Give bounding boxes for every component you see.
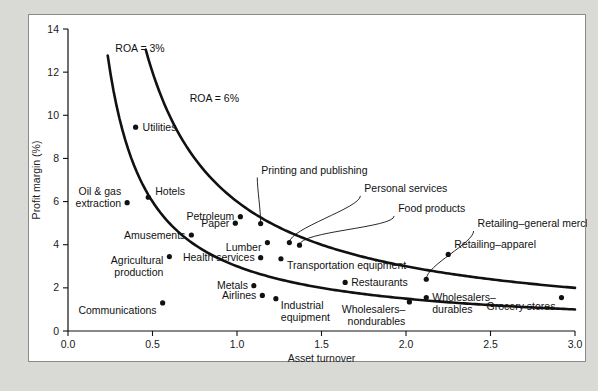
x-axis-tick-label: 1.0: [230, 338, 245, 350]
curve-annotation: ROA = 3%: [115, 42, 164, 54]
data-point-label: Personal services: [364, 182, 447, 194]
data-point-label: Communications: [78, 304, 156, 316]
curve-annotation: ROA = 6%: [190, 92, 239, 104]
data-point: [167, 254, 172, 259]
y-axis-title: Profit margin (%): [30, 141, 42, 220]
data-point: [424, 295, 429, 300]
x-axis-tick-label: 0.0: [61, 338, 76, 350]
x-axis-tick-label: 2.5: [483, 338, 498, 350]
x-axis-title: Asset turnover: [288, 352, 356, 363]
data-point: [446, 252, 451, 257]
scatter-plot: 024681012140.00.51.01.52.02.53.0Asset tu…: [29, 15, 587, 363]
data-point: [160, 300, 165, 305]
x-axis-tick-label: 1.5: [314, 338, 329, 350]
data-point-label: Oil & gasextraction: [76, 185, 122, 210]
data-point-label: Agriculturalproduction: [111, 254, 164, 278]
data-point-label: Hotels: [155, 185, 185, 197]
y-axis-tick-label: 8: [53, 152, 59, 164]
data-point: [559, 295, 564, 300]
data-point-label: Transportation equipment: [287, 259, 406, 271]
data-point-label: Food products: [398, 202, 465, 214]
data-point: [258, 255, 263, 260]
data-point: [189, 232, 194, 237]
point-labels-layer: Printing and publishingPersonal services…: [76, 121, 587, 328]
x-axis-tick-label: 3.0: [568, 338, 583, 350]
data-point: [278, 256, 283, 261]
data-point-label: Amusements: [124, 229, 185, 241]
data-point-label: Health services: [183, 251, 255, 263]
data-point: [251, 283, 256, 288]
data-point-label: Restaurants: [351, 276, 408, 288]
data-point: [265, 240, 270, 245]
iso-roa-curve: [108, 56, 575, 310]
data-point: [424, 277, 429, 282]
data-point: [238, 214, 243, 219]
y-axis-tick-label: 2: [53, 281, 59, 293]
data-point: [343, 280, 348, 285]
data-point: [125, 200, 130, 205]
axis-lines: [68, 29, 575, 331]
x-axis-tick-label: 0.5: [145, 338, 160, 350]
data-point-label: Retailing–general merchandise: [478, 217, 587, 229]
y-axis-tick-label: 12: [47, 66, 59, 78]
data-point-label: Lumber: [226, 241, 262, 253]
data-point-label: Paper: [201, 217, 230, 229]
data-point-label: Wholesalers–nondurables: [342, 303, 406, 328]
data-point-label: Industrialequipment: [281, 299, 330, 324]
data-point: [258, 221, 263, 226]
y-axis-tick-label: 10: [47, 109, 59, 121]
y-axis-tick-label: 0: [53, 325, 59, 337]
data-point: [133, 125, 138, 130]
y-axis-tick-label: 4: [53, 238, 59, 250]
data-point-label: Retailing–apparel: [454, 238, 536, 250]
data-point: [260, 293, 265, 298]
data-point-label: Utilities: [143, 121, 177, 133]
x-axis-tick-label: 2.0: [399, 338, 414, 350]
data-point: [273, 296, 278, 301]
y-axis-tick-label: 6: [53, 195, 59, 207]
chart-panel: 024681012140.00.51.01.52.02.53.0Asset tu…: [28, 14, 586, 362]
data-point-label: Printing and publishing: [261, 164, 367, 176]
data-point: [407, 299, 412, 304]
data-point: [297, 243, 302, 248]
data-point-label: Airlines: [222, 289, 256, 301]
curve-annotations-layer: ROA = 3%ROA = 6%: [115, 42, 239, 105]
data-point: [146, 195, 151, 200]
data-point: [287, 240, 292, 245]
y-axis-tick-label: 14: [47, 23, 59, 35]
data-point-label: Grocery stores: [487, 300, 556, 312]
